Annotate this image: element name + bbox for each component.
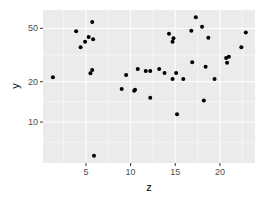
data-point xyxy=(91,37,95,41)
data-point xyxy=(244,31,248,35)
data-point xyxy=(171,40,175,44)
data-point xyxy=(200,25,204,29)
data-point xyxy=(133,88,137,92)
data-point xyxy=(225,61,229,65)
x-tick-label: 15 xyxy=(170,167,180,177)
data-point xyxy=(157,67,161,71)
data-point xyxy=(74,29,78,33)
data-point xyxy=(90,20,94,24)
y-axis: 102050 xyxy=(28,23,43,127)
data-point xyxy=(189,29,193,33)
data-point xyxy=(194,15,198,19)
data-point xyxy=(174,71,178,75)
data-point xyxy=(92,154,96,158)
data-point xyxy=(167,32,171,36)
data-point xyxy=(175,112,179,116)
data-point xyxy=(213,77,217,81)
x-axis-title: z xyxy=(146,181,152,193)
data-point xyxy=(181,77,185,81)
data-point xyxy=(124,73,128,77)
data-point xyxy=(87,35,91,39)
y-tick-label: 20 xyxy=(28,77,38,87)
x-axis: 5101520 xyxy=(83,163,224,177)
data-point xyxy=(171,36,175,40)
data-point xyxy=(148,69,152,73)
data-point xyxy=(239,45,243,49)
data-point xyxy=(202,98,206,102)
data-point xyxy=(90,68,94,72)
x-tick-label: 10 xyxy=(126,167,136,177)
data-point xyxy=(83,40,87,44)
y-tick-label: 10 xyxy=(28,117,38,127)
data-point xyxy=(51,75,55,79)
data-point xyxy=(144,69,148,73)
y-tick-label: 50 xyxy=(28,23,38,33)
data-point xyxy=(227,55,231,59)
x-tick-label: 20 xyxy=(215,167,225,177)
data-point xyxy=(190,60,194,64)
data-point xyxy=(120,87,124,91)
data-point xyxy=(148,96,152,100)
x-tick-label: 5 xyxy=(83,167,88,177)
plot-panel xyxy=(43,10,255,163)
data-point xyxy=(79,45,83,49)
scatter-chart: 5101520 102050 z y xyxy=(0,0,266,203)
y-axis-title: y xyxy=(9,83,21,89)
data-point xyxy=(204,65,208,69)
data-point xyxy=(171,77,175,81)
data-point xyxy=(136,67,140,71)
data-point xyxy=(163,71,167,75)
data-point xyxy=(206,36,210,40)
